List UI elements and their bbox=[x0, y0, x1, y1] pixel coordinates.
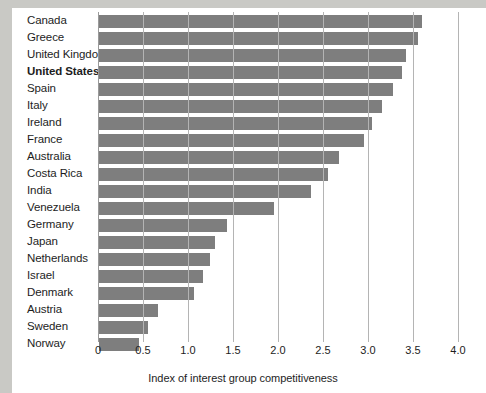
x-tick-label: 3.0 bbox=[360, 344, 375, 356]
x-axis-title: Index of interest group competitiveness bbox=[0, 372, 486, 384]
category-label: Japan bbox=[27, 234, 58, 251]
category-label: Sweden bbox=[27, 319, 68, 336]
gridline-1.5 bbox=[233, 12, 234, 342]
category-label: India bbox=[27, 183, 51, 200]
bar bbox=[99, 100, 382, 113]
bar bbox=[99, 219, 227, 232]
bar bbox=[99, 117, 372, 130]
bar bbox=[99, 32, 418, 45]
category-label: Norway bbox=[27, 336, 65, 353]
gridline-0 bbox=[98, 12, 99, 342]
gridline-4.0 bbox=[458, 12, 459, 342]
x-tick-label: 0.5 bbox=[135, 344, 150, 356]
category-label: Netherlands bbox=[27, 251, 88, 268]
gridline-3.5 bbox=[413, 12, 414, 342]
bar bbox=[99, 202, 274, 215]
bar bbox=[99, 236, 215, 249]
bar bbox=[99, 15, 422, 28]
figure: CanadaGreeceUnited KingdomUnited StatesS… bbox=[0, 0, 486, 393]
bar bbox=[99, 168, 328, 181]
category-label: Greece bbox=[27, 30, 64, 47]
bar bbox=[99, 321, 148, 334]
x-tick-label: 1.5 bbox=[225, 344, 240, 356]
category-label: Venezuela bbox=[27, 200, 80, 217]
category-label: United States bbox=[27, 64, 99, 81]
x-tick-label: 1.0 bbox=[180, 344, 195, 356]
bar bbox=[99, 338, 139, 351]
category-label: Italy bbox=[27, 98, 48, 115]
category-label: Costa Rica bbox=[27, 166, 82, 183]
category-label: Austria bbox=[27, 302, 62, 319]
bar bbox=[99, 151, 339, 164]
bar bbox=[99, 253, 210, 266]
category-label: Denmark bbox=[27, 285, 73, 302]
x-tick-label: 4.0 bbox=[450, 344, 465, 356]
x-tick-label: 3.5 bbox=[405, 344, 420, 356]
category-label: Spain bbox=[27, 81, 56, 98]
gridline-1.0 bbox=[188, 12, 189, 342]
x-tick-label: 0 bbox=[95, 344, 101, 356]
category-label: Ireland bbox=[27, 115, 61, 132]
bar bbox=[99, 304, 158, 317]
gridline-2.0 bbox=[278, 12, 279, 342]
category-label: France bbox=[27, 132, 62, 149]
category-label: Canada bbox=[27, 13, 67, 30]
category-label: Israel bbox=[27, 268, 55, 285]
bar bbox=[99, 49, 406, 62]
category-label: United Kingdom bbox=[27, 47, 107, 64]
plot-area: CanadaGreeceUnited KingdomUnited StatesS… bbox=[0, 0, 486, 393]
gridline-0.5 bbox=[143, 12, 144, 342]
category-label: Australia bbox=[27, 149, 71, 166]
gridline-3.0 bbox=[368, 12, 369, 342]
x-tick-label: 2.5 bbox=[315, 344, 330, 356]
x-tick-label: 2.0 bbox=[270, 344, 285, 356]
category-label: Germany bbox=[27, 217, 74, 234]
bar bbox=[99, 66, 402, 79]
gridline-2.5 bbox=[323, 12, 324, 342]
bar bbox=[99, 287, 194, 300]
bar bbox=[99, 134, 364, 147]
bar bbox=[99, 185, 311, 198]
